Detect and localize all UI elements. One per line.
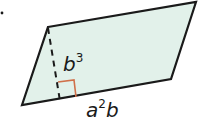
parallelogram-diagram: b3 a2b (0, 0, 208, 132)
parallelogram-shape (22, 2, 196, 105)
bullet-dot (1, 12, 4, 15)
base-label: a2b (86, 97, 119, 122)
